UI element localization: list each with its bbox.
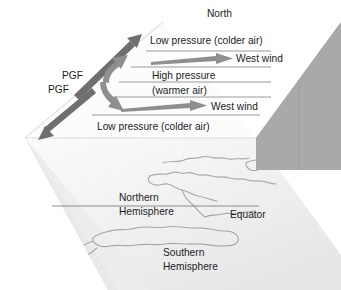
lower-low-pressure-label: Low pressure (colder air)	[97, 121, 210, 132]
equator-label: Equator	[230, 209, 266, 220]
high-pressure-label-second-line: (warmer air)	[152, 85, 207, 96]
northern-hemisphere-label-line1: Northern	[119, 192, 159, 203]
pgf-upper-label: PGF	[62, 70, 83, 81]
pgf-lower-label: PGF	[48, 84, 69, 95]
northern-hemisphere-label-line2: Hemisphere	[119, 206, 174, 217]
southern-hemisphere-label-line2: Hemisphere	[163, 261, 218, 272]
lower-west-wind-label: West wind	[211, 101, 258, 112]
upper-west-wind-label: West wind	[236, 53, 283, 64]
southern-hemisphere-label-line1: Southern	[163, 247, 204, 258]
upper-low-pressure-label: Low pressure (colder air)	[150, 35, 263, 46]
high-pressure-label: High pressure	[152, 70, 216, 81]
north-label: North	[207, 8, 232, 19]
circulation-diagram: North Low pressure (colder air) West win…	[0, 0, 341, 290]
